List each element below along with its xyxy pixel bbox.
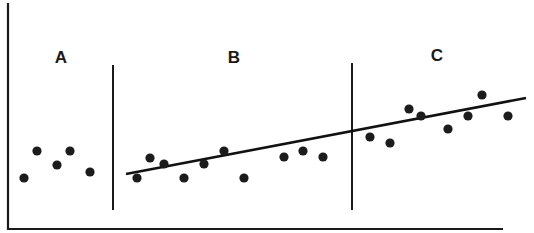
segment-label-a: A: [55, 48, 67, 67]
data-point-b: [145, 153, 154, 162]
scatter-chart: A B C: [0, 0, 534, 233]
trend-line: [126, 98, 526, 174]
segment-label-b: B: [228, 48, 240, 67]
segment-dividers: [113, 63, 352, 210]
data-point-a: [19, 173, 28, 182]
data-point-c: [503, 111, 512, 120]
data-point-c: [365, 132, 374, 141]
regression-line: [126, 98, 526, 174]
data-point-b: [132, 173, 141, 182]
data-point-b: [239, 173, 248, 182]
segment-label-c: C: [431, 46, 443, 65]
data-point-b: [199, 159, 208, 168]
data-point-b: [179, 173, 188, 182]
data-point-c: [477, 90, 486, 99]
data-point-c: [416, 111, 425, 120]
data-point-a: [32, 146, 41, 155]
data-point-b: [159, 159, 168, 168]
data-point-b: [318, 152, 327, 161]
data-point-b: [219, 146, 228, 155]
data-point-b: [298, 146, 307, 155]
data-point-a: [52, 160, 61, 169]
data-points: [19, 90, 512, 182]
data-point-c: [404, 104, 413, 113]
data-point-a: [65, 146, 74, 155]
data-point-c: [443, 124, 452, 133]
data-point-b: [279, 152, 288, 161]
data-point-a: [85, 167, 94, 176]
data-point-c: [385, 138, 394, 147]
data-point-c: [463, 111, 472, 120]
